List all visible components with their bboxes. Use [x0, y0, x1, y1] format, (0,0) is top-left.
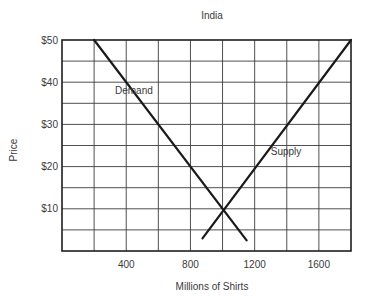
x-axis-ticks: 40080012001600: [118, 259, 331, 270]
x-tick-label: 800: [182, 259, 199, 270]
chart-grid: [62, 40, 351, 251]
x-tick-label: 1600: [308, 259, 331, 270]
x-tick-label: 1200: [244, 259, 267, 270]
supply-demand-chart: India $10$20$30$40$50 40080012001600 Dem…: [0, 0, 374, 296]
supply-label: Supply: [271, 146, 302, 157]
y-tick-label: $40: [41, 77, 58, 88]
demand-label: Demand: [115, 85, 153, 96]
y-axis-label: Price: [8, 138, 19, 161]
y-axis-ticks: $10$20$30$40$50: [41, 35, 58, 215]
x-axis-label: Millions of Shirts: [176, 281, 249, 292]
chart-title: India: [201, 10, 223, 21]
x-tick-label: 400: [118, 259, 135, 270]
y-tick-label: $30: [41, 119, 58, 130]
y-tick-label: $50: [41, 35, 58, 46]
curve-labels: DemandSupply: [115, 85, 301, 157]
y-tick-label: $20: [41, 161, 58, 172]
y-tick-label: $10: [41, 203, 58, 214]
